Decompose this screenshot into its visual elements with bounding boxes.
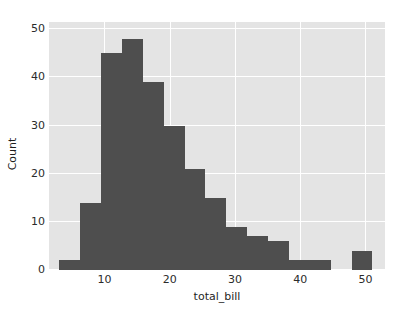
histogram-bar: [310, 260, 331, 270]
histogram-bar: [59, 260, 80, 270]
histogram-bar: [80, 203, 101, 270]
x-tick-label: 40: [280, 274, 320, 285]
histogram-bar: [226, 227, 247, 270]
y-axis-label: Count: [6, 30, 22, 278]
gridline-vertical: [365, 22, 366, 270]
x-tick-label: 20: [150, 274, 190, 285]
histogram-bar: [185, 169, 206, 270]
x-tick-label: 50: [345, 274, 385, 285]
histogram-bar: [101, 53, 122, 270]
gridline-horizontal: [49, 76, 385, 77]
histogram-bar: [122, 39, 143, 270]
histogram-bar: [143, 82, 164, 270]
gridline-horizontal: [49, 125, 385, 126]
histogram-bar: [268, 241, 289, 270]
gridline-horizontal: [49, 173, 385, 174]
histogram-bar: [247, 236, 268, 270]
gridline-vertical: [300, 22, 301, 270]
x-tick-label: 10: [84, 274, 124, 285]
histogram-bar: [205, 198, 226, 270]
gridline-horizontal: [49, 28, 385, 29]
histogram-bar: [352, 251, 373, 270]
x-tick-label: 30: [215, 274, 255, 285]
histogram-bar: [164, 126, 185, 270]
histogram-bar: [289, 260, 310, 270]
x-axis-label: total_bill: [49, 290, 385, 303]
plot-area: [49, 22, 385, 270]
histogram-figure: 01020304050 total_bill Count 1020304050: [0, 0, 398, 320]
